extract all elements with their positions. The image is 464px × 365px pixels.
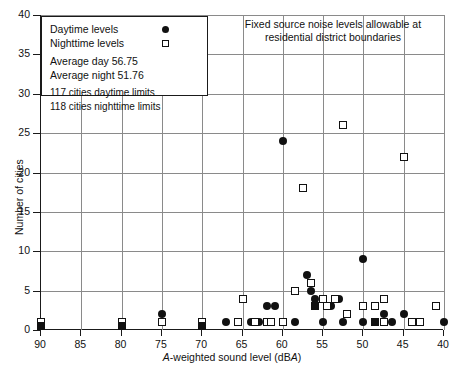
data-point-day bbox=[440, 318, 448, 326]
data-point-day bbox=[319, 318, 327, 326]
data-point-day bbox=[359, 255, 367, 263]
legend-item-daytime: Daytime levels bbox=[50, 22, 207, 36]
y-tick-label: 10 bbox=[0, 245, 30, 255]
data-point-both bbox=[311, 302, 319, 310]
data-point-night bbox=[359, 302, 367, 310]
annotation-line-2: residential district boundaries bbox=[228, 31, 438, 44]
data-point-night bbox=[380, 318, 388, 326]
data-point-day bbox=[263, 302, 271, 310]
data-point-night bbox=[400, 153, 408, 161]
data-point-day bbox=[279, 137, 287, 145]
legend-count-daytime: 117 cities daytime limits bbox=[50, 86, 207, 100]
chart-annotation: Fixed source noise levels allowable at r… bbox=[228, 18, 438, 44]
x-tick bbox=[242, 330, 243, 336]
x-axis-title-post: ) bbox=[298, 351, 302, 363]
open-square-icon bbox=[162, 40, 169, 47]
x-tick bbox=[80, 330, 81, 336]
x-tick bbox=[403, 330, 404, 336]
data-point-day bbox=[359, 318, 367, 326]
data-point-both bbox=[37, 322, 45, 330]
x-tick-label: 90 bbox=[20, 338, 60, 350]
x-tick bbox=[40, 330, 41, 336]
legend-box: Daytime levels Nighttime levels Average … bbox=[41, 16, 208, 96]
y-tick-label: 15 bbox=[0, 206, 30, 216]
data-point-night bbox=[234, 318, 242, 326]
x-tick-label: 40 bbox=[423, 338, 463, 350]
data-point-day bbox=[388, 318, 396, 326]
gridline-vertical bbox=[363, 15, 364, 330]
x-tick bbox=[443, 330, 444, 336]
data-point-night bbox=[339, 121, 347, 129]
data-point-night bbox=[251, 318, 259, 326]
data-point-both bbox=[118, 322, 126, 330]
x-tick-label: 75 bbox=[141, 338, 181, 350]
x-tick-label: 65 bbox=[222, 338, 262, 350]
data-point-night bbox=[299, 184, 307, 192]
data-point-day bbox=[158, 310, 166, 318]
filled-circle-icon bbox=[162, 26, 169, 33]
y-tick bbox=[33, 330, 40, 331]
x-axis-title-mid: -weighted sound level (dB bbox=[170, 351, 291, 363]
data-point-night bbox=[291, 287, 299, 295]
legend-average-day: Average day 56.75 bbox=[50, 54, 207, 68]
y-tick-label: 40 bbox=[0, 9, 30, 19]
x-tick bbox=[282, 330, 283, 336]
data-point-night bbox=[416, 318, 424, 326]
x-tick-label: 45 bbox=[383, 338, 423, 350]
data-point-night bbox=[279, 318, 287, 326]
x-tick bbox=[161, 330, 162, 336]
y-tick bbox=[33, 15, 40, 16]
data-point-night bbox=[323, 302, 331, 310]
x-tick-label: 50 bbox=[342, 338, 382, 350]
gridline-vertical bbox=[283, 15, 284, 330]
x-tick-label: 70 bbox=[181, 338, 221, 350]
data-point-day bbox=[311, 295, 319, 303]
legend-label-daytime: Daytime levels bbox=[50, 23, 162, 35]
data-point-night bbox=[432, 302, 440, 310]
data-point-night bbox=[371, 302, 379, 310]
y-tick bbox=[33, 251, 40, 252]
y-tick-label: 35 bbox=[0, 48, 30, 58]
data-point-day bbox=[291, 318, 299, 326]
data-point-night bbox=[319, 295, 327, 303]
data-point-day bbox=[271, 302, 279, 310]
data-point-night bbox=[267, 318, 275, 326]
y-tick bbox=[33, 173, 40, 174]
data-point-night bbox=[158, 318, 166, 326]
x-tick bbox=[201, 330, 202, 336]
x-axis-title-a2: A bbox=[291, 351, 298, 363]
x-tick bbox=[322, 330, 323, 336]
x-axis-title: A-weighted sound level (dBA) bbox=[0, 351, 464, 363]
y-tick-label: 20 bbox=[0, 167, 30, 177]
legend-average-night: Average night 51.76 bbox=[50, 68, 207, 82]
annotation-line-1: Fixed source noise levels allowable at bbox=[228, 18, 438, 31]
gridline-vertical bbox=[404, 15, 405, 330]
y-tick bbox=[33, 54, 40, 55]
data-point-night bbox=[343, 310, 351, 318]
data-point-night bbox=[331, 295, 339, 303]
data-point-day bbox=[307, 287, 315, 295]
data-point-day bbox=[380, 310, 388, 318]
y-tick bbox=[33, 94, 40, 95]
x-tick bbox=[362, 330, 363, 336]
data-point-day bbox=[339, 318, 347, 326]
data-point-night bbox=[408, 318, 416, 326]
x-tick bbox=[121, 330, 122, 336]
gridline-vertical bbox=[444, 15, 445, 330]
legend-item-nighttime: Nighttime levels bbox=[50, 36, 207, 50]
y-tick-label: 25 bbox=[0, 127, 30, 137]
y-tick bbox=[33, 291, 40, 292]
data-point-both bbox=[198, 322, 206, 330]
y-tick bbox=[33, 133, 40, 134]
y-tick-label: 30 bbox=[0, 88, 30, 98]
gridline-vertical bbox=[323, 15, 324, 330]
data-point-day bbox=[303, 271, 311, 279]
x-tick-label: 60 bbox=[262, 338, 302, 350]
data-point-night bbox=[380, 295, 388, 303]
y-tick-label: 5 bbox=[0, 285, 30, 295]
legend-count-nighttime: 118 cities nighttime limits bbox=[50, 100, 207, 114]
x-axis-title-a1: A bbox=[163, 351, 170, 363]
data-point-night bbox=[307, 279, 315, 287]
x-tick-label: 80 bbox=[101, 338, 141, 350]
legend-label-nighttime: Nighttime levels bbox=[50, 37, 162, 49]
